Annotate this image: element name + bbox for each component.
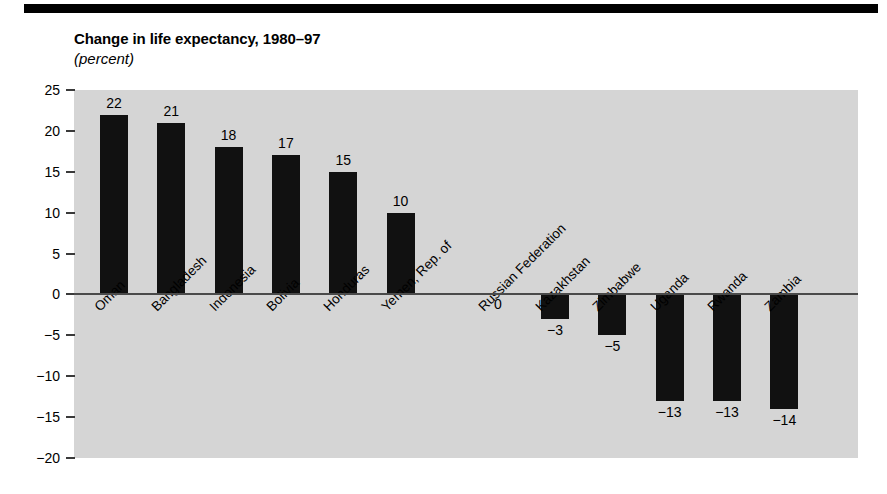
bar-value-label: −3 <box>531 322 579 338</box>
y-axis-tick-label: −20 <box>14 450 60 466</box>
y-axis-tick-label: 20 <box>14 123 60 139</box>
bar-value-label: −14 <box>760 412 808 428</box>
bar <box>770 294 798 408</box>
chart-title: Change in life expectancy, 1980–97 <box>74 30 320 47</box>
y-axis-tick-mark <box>66 375 75 377</box>
bar-value-label: 22 <box>90 95 138 111</box>
y-axis-tick-mark <box>66 253 75 255</box>
bar <box>100 115 128 295</box>
top-rule-divider <box>24 4 878 13</box>
y-axis-tick-label: 15 <box>14 164 60 180</box>
y-axis-tick-label: 0 <box>14 286 60 302</box>
bar-value-label: −13 <box>703 404 751 420</box>
y-axis-tick-mark <box>66 212 75 214</box>
bar <box>157 123 185 295</box>
y-axis-tick-label: 5 <box>14 246 60 262</box>
y-axis-tick-label: −5 <box>14 327 60 343</box>
bar-value-label: 10 <box>377 193 425 209</box>
y-axis-tick-mark <box>66 416 75 418</box>
y-axis-tick-mark <box>66 171 75 173</box>
y-axis-tick-mark <box>66 89 75 91</box>
y-axis-tick-label: 25 <box>14 82 60 98</box>
y-axis-tick-label: 10 <box>14 205 60 221</box>
bar-value-label: 18 <box>205 127 253 143</box>
bar-value-label: −5 <box>588 338 636 354</box>
bar-value-label: 21 <box>147 103 195 119</box>
y-axis-tick-label: −15 <box>14 409 60 425</box>
zero-baseline <box>74 293 858 295</box>
chart-figure: Change in life expectancy, 1980–97 (perc… <box>0 0 887 494</box>
y-axis-tick-mark <box>66 457 75 459</box>
y-axis-tick-mark <box>66 130 75 132</box>
bar <box>272 155 300 294</box>
bar-value-label: −13 <box>646 404 694 420</box>
chart-subtitle: (percent) <box>74 50 134 67</box>
y-axis-tick-label: −10 <box>14 368 60 384</box>
bar-value-label: 15 <box>319 152 367 168</box>
y-axis-tick-mark <box>66 334 75 336</box>
bar-value-label: 17 <box>262 135 310 151</box>
